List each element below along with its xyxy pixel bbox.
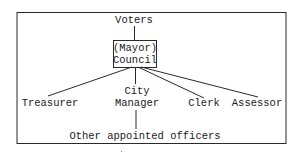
node-clerk: Clerk [186, 97, 222, 109]
node-assessor-label: Assessor [232, 97, 282, 109]
node-treasurer: Treasurer [20, 97, 80, 109]
node-voters-label: Voters [115, 14, 153, 26]
node-treasurer-label: Treasurer [22, 97, 79, 109]
node-council-line2: Council [113, 54, 157, 66]
node-clerk-label: Clerk [188, 97, 220, 109]
node-city-manager-line2: Manager [112, 97, 162, 109]
outer-frame [17, 13, 286, 144]
node-other-officers: Other appointed officers [66, 130, 224, 142]
node-voters: Voters [112, 14, 156, 26]
node-council-line1: (Mayor) [113, 42, 157, 54]
org-chart-diagram: Voters (Mayor) Council Treasurer City Ma… [0, 0, 302, 155]
node-other-officers-label: Other appointed officers [69, 130, 220, 142]
node-council: (Mayor) Council [113, 40, 157, 68]
node-city-manager-line1: City [112, 85, 162, 97]
node-assessor: Assessor [230, 97, 284, 109]
scan-artifact-dot [121, 151, 122, 152]
node-city-manager: City Manager [112, 85, 162, 109]
